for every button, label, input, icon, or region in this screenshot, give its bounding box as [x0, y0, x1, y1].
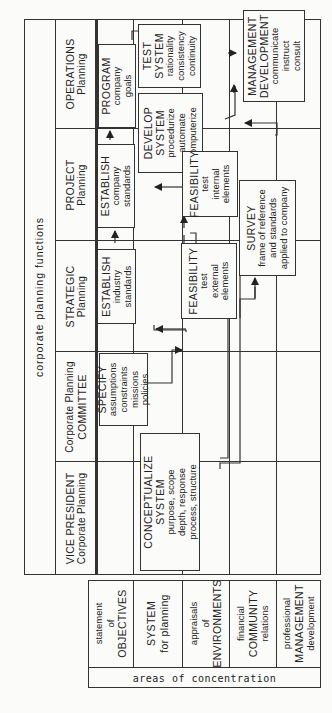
box-title: ESTABLISH	[100, 256, 112, 317]
box-line: policies	[140, 374, 151, 406]
box-survey: SURVEY frame of reference and standards …	[239, 180, 296, 276]
box-line: standards	[122, 165, 133, 207]
box-establish-company: ESTABLISH company standards	[97, 144, 135, 228]
box-title: MANAGEMENT	[246, 16, 258, 95]
box-title: SPECIFY	[96, 366, 108, 414]
box-line: purpose, scope	[166, 470, 177, 535]
rotated-diagram: corporate planning functions VICE PRESID…	[0, 0, 332, 713]
box-line: depth, response	[177, 468, 188, 536]
box-title: FEASIBILITY	[188, 151, 200, 218]
box-line: test	[199, 273, 210, 288]
box-line: consult	[292, 41, 303, 71]
box-title: TEST	[141, 42, 153, 70]
box-title: SYSTEM	[154, 479, 166, 525]
box-title: CONCEPTUALIZE	[142, 455, 154, 548]
box-title: DEVELOPMENT	[258, 14, 270, 98]
box-management-development: MANAGEMENT DEVELOPMENT communicate instr…	[243, 10, 305, 102]
box-line: communicate	[270, 28, 281, 85]
box-line: instruct	[281, 41, 292, 72]
box-line: constraints	[119, 367, 130, 413]
box-line: goals	[123, 75, 134, 98]
box-line: test	[200, 176, 211, 191]
box-line: continuity	[187, 36, 198, 76]
box-feasibility-internal: FEASIBILITY test internal elements	[182, 151, 238, 217]
box-program: PROGRAM company goals	[98, 44, 136, 128]
box-line: process, structure	[188, 464, 199, 540]
box-title: DEVELOP	[142, 107, 154, 159]
box-line: assumptions	[108, 363, 119, 416]
box-specify: SPECIFY assumptions constraints missions…	[99, 353, 148, 426]
box-test-system: TEST SYSTEM rationality consistency cont…	[138, 24, 201, 88]
box-line: industry	[112, 270, 123, 303]
box-conceptualize-system: CONCEPTUALIZE SYSTEM purpose, scope dept…	[140, 433, 200, 571]
box-feasibility-external: FEASIBILITY test external elements	[181, 243, 237, 319]
box-line: elements	[220, 262, 231, 301]
box-title: FEASIBILITY	[187, 248, 199, 315]
box-line: applied to company	[279, 187, 290, 269]
box-line: elements	[221, 165, 232, 204]
box-establish-industry: ESTABLISH industry standards	[97, 249, 136, 324]
box-line: standards	[123, 266, 134, 308]
